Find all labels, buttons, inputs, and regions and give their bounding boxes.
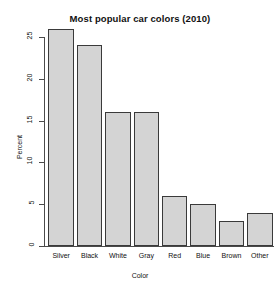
bar-slot: [246, 20, 274, 246]
y-axis-tick-label-text: 5: [29, 201, 36, 205]
y-axis-tick-mark: [39, 204, 44, 205]
x-axis-tick-label: White: [104, 252, 132, 259]
x-axis-title: Color: [0, 272, 280, 279]
y-axis-tick-mark: [39, 37, 44, 38]
bar-slot: [161, 20, 189, 246]
bar-slot: [47, 20, 75, 246]
y-axis-title: Percent: [16, 135, 23, 159]
bar-slot: [132, 20, 160, 246]
y-axis-tick-label-text: 0: [29, 243, 36, 247]
bar: [162, 196, 188, 246]
x-axis-tick-label: Blue: [189, 252, 217, 259]
bar-series: [47, 20, 274, 246]
y-axis-tick-label-text: 15: [27, 115, 34, 123]
y-axis-tick-label: 25: [0, 32, 34, 39]
y-axis-tick-label-text: 25: [27, 32, 34, 40]
y-axis-tick-label: 5: [0, 199, 34, 206]
y-axis-line: [44, 37, 45, 247]
y-axis-tick-label: 0: [0, 241, 34, 248]
y-axis-tick-label-text: 10: [27, 157, 34, 165]
bar-slot: [217, 20, 245, 246]
x-axis-tick-label: Gray: [132, 252, 160, 259]
x-axis-tick-label: Black: [75, 252, 103, 259]
x-axis-tick-label: Silver: [47, 252, 75, 259]
x-axis-tick-label: Other: [246, 252, 274, 259]
y-axis-tick-mark: [39, 79, 44, 80]
y-axis-tick-label: 20: [0, 74, 34, 81]
y-axis-tick-mark: [39, 121, 44, 122]
bar-chart: Most popular car colors (2010) 051015202…: [0, 0, 280, 294]
bar: [77, 45, 103, 246]
x-axis-tick-labels: SilverBlackWhiteGrayRedBlueBrownOther: [47, 252, 274, 259]
x-axis-tick-label: Red: [161, 252, 189, 259]
bar-slot: [75, 20, 103, 246]
bar-slot: [189, 20, 217, 246]
bar: [48, 29, 74, 246]
bar: [134, 112, 160, 246]
x-axis-tick-label: Brown: [217, 252, 245, 259]
bar: [219, 221, 245, 246]
x-axis-line: [44, 246, 274, 247]
bar-slot: [104, 20, 132, 246]
y-axis-tick-mark: [39, 162, 44, 163]
bar: [247, 213, 273, 246]
bar: [190, 204, 216, 246]
y-axis-tick-label-text: 20: [27, 73, 34, 81]
bar: [105, 112, 131, 246]
y-axis-tick-label: 15: [0, 116, 34, 123]
